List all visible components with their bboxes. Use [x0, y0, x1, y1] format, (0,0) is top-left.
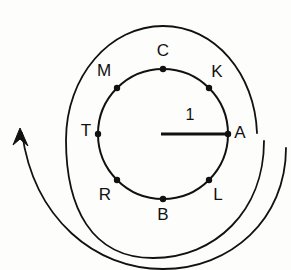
rotation-arc-outer [22, 133, 286, 269]
vertex-dot-l [206, 177, 212, 183]
vertex-label-k: K [211, 62, 223, 81]
vertex-label-t: T [81, 121, 91, 140]
vertex-label-c: C [157, 41, 169, 60]
vertex-dot-a [225, 131, 231, 137]
vertex-label-m: M [97, 61, 111, 80]
vertex-label-l: L [213, 185, 222, 204]
vertex-label-r: R [99, 185, 111, 204]
vertex-label-b: B [157, 205, 168, 224]
vertex-dot-r [114, 177, 120, 183]
vertex-dot-k [206, 85, 212, 91]
rotation-arrow-head-icon [13, 128, 28, 146]
figure-canvas: 1 AKCMTRBL [0, 0, 291, 270]
geometry-figure: 1 AKCMTRBL [0, 0, 291, 270]
vertex-label-a: A [234, 123, 246, 142]
vertex-dot-b [160, 196, 166, 202]
vertex-dot-t [95, 131, 101, 137]
vertex-dot-m [114, 85, 120, 91]
vertex-dot-c [160, 66, 166, 72]
radius-length-label: 1 [186, 106, 195, 123]
